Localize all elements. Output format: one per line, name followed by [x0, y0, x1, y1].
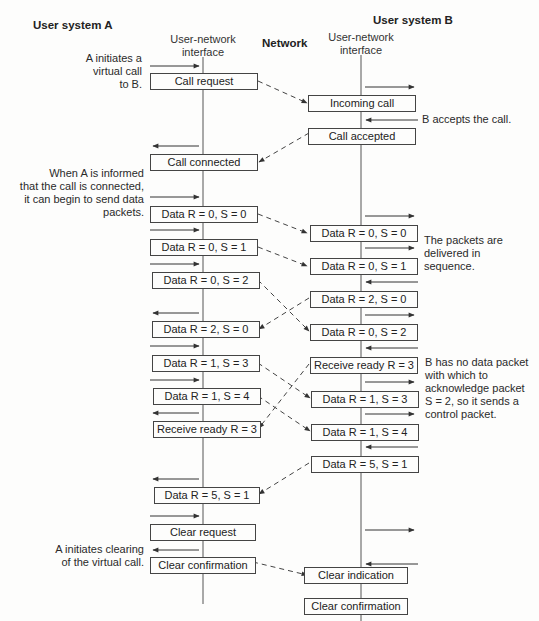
sequence-diagram-lines [0, 0, 539, 621]
b-packet-incoming-call: Incoming call [308, 95, 416, 112]
a-packet-data-r1-s4: Data R = 1, S = 4 [153, 388, 261, 405]
b-packet-data-r0-s2: Data R = 0, S = 2 [310, 324, 418, 341]
a-packet-call-connected: Call connected [150, 154, 258, 171]
a-packet-data-r0-s1: Data R = 0, S = 1 [150, 239, 258, 256]
a-packet-clear-confirmation: Clear confirmation [150, 557, 256, 574]
b-packet-data-r0-s1: Data R = 0, S = 1 [310, 258, 418, 275]
a-packet-data-r1-s3: Data R = 1, S = 3 [152, 355, 260, 372]
b-packet-call-accepted: Call accepted [308, 128, 416, 145]
a-packet-data-r0-s0: Data R = 0, S = 0 [150, 206, 258, 223]
a-packet-data-r0-s2: Data R = 0, S = 2 [152, 272, 260, 289]
network-transfers [253, 81, 310, 575]
b-packet-data-r2-s0: Data R = 2, S = 0 [310, 291, 418, 308]
a-packet-call-request: Call request [150, 73, 258, 90]
b-packet-clear-confirmation: Clear confirmation [304, 598, 408, 615]
b-packet-receive-ready-r3: Receive ready R = 3 [310, 357, 418, 374]
a-packet-data-r2-s0: Data R = 2, S = 0 [152, 321, 260, 338]
a-packet-receive-ready-r3: Receive ready R = 3 [153, 421, 261, 438]
b-packet-data-r1-s3: Data R = 1, S = 3 [311, 391, 419, 408]
a-packet-clear-request: Clear request [150, 524, 256, 541]
a-packet-data-r5-s1: Data R = 5, S = 1 [154, 487, 260, 504]
b-packet-data-r0-s0: Data R = 0, S = 0 [310, 225, 418, 242]
b-packet-clear-indication: Clear indication [304, 567, 408, 584]
b-packet-data-r1-s4: Data R = 1, S = 4 [311, 424, 419, 441]
a-side-arrows [150, 66, 199, 550]
b-packet-data-r5-s1: Data R = 5, S = 1 [311, 456, 419, 473]
